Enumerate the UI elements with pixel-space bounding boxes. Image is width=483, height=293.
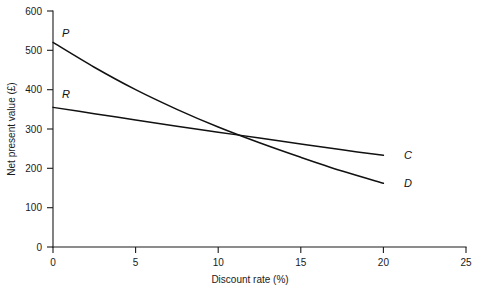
curve-series-C <box>53 107 383 155</box>
curve-end-label-C: C <box>404 149 412 161</box>
y-tick-label-600: 600 <box>25 6 42 17</box>
curve-start-label-P: P <box>62 27 70 39</box>
npv-line-chart: 600 500 400 300 200 100 0 0 5 10 15 20 2… <box>0 0 483 293</box>
x-axis-title: Discount rate (%) <box>211 274 288 285</box>
y-tick-label-300: 300 <box>25 124 42 135</box>
x-tick-label-15: 15 <box>295 257 307 268</box>
y-axis-ticks <box>47 11 53 247</box>
chart-figure: 600 500 400 300 200 100 0 0 5 10 15 20 2… <box>0 0 483 293</box>
curve-series-D <box>53 42 383 183</box>
x-tick-label-10: 10 <box>213 257 225 268</box>
x-axis-ticks <box>53 247 466 253</box>
y-tick-label-500: 500 <box>25 45 42 56</box>
x-tick-label-0: 0 <box>50 257 56 268</box>
y-tick-label-100: 100 <box>25 202 42 213</box>
y-tick-label-0: 0 <box>36 242 42 253</box>
y-tick-label-400: 400 <box>25 84 42 95</box>
y-tick-label-200: 200 <box>25 163 42 174</box>
x-tick-label-20: 20 <box>378 257 390 268</box>
curve-start-label-R: R <box>62 88 70 100</box>
x-tick-label-5: 5 <box>133 257 139 268</box>
y-axis-title: Net present value (£) <box>6 82 17 175</box>
curve-end-label-D: D <box>404 177 412 189</box>
x-tick-label-25: 25 <box>460 257 472 268</box>
